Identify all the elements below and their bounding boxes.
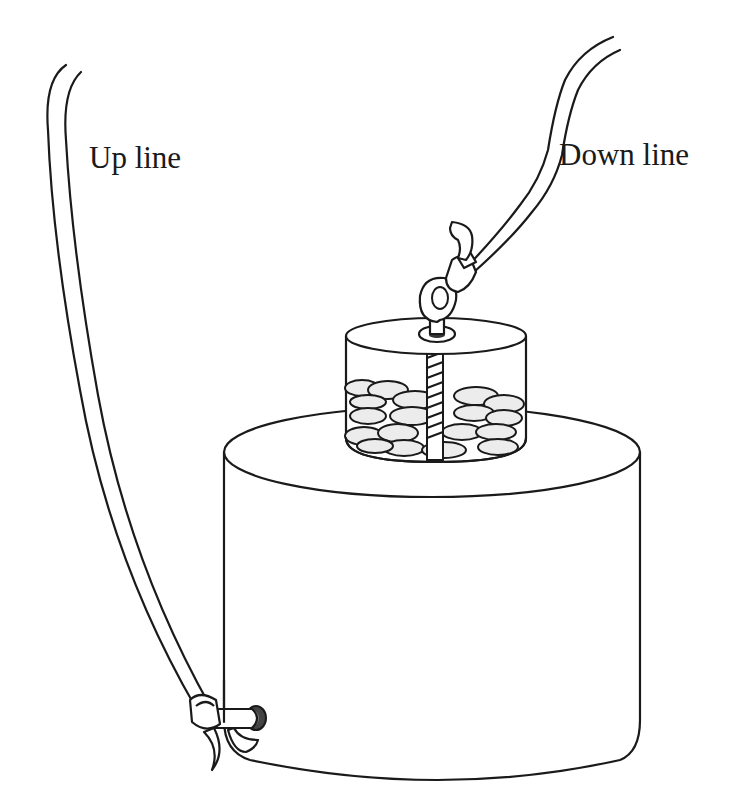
threaded-rod [427,338,443,460]
down-line-label: Down line [559,139,689,170]
trap-diagram [0,0,734,809]
up-line-label: Up line [89,142,181,173]
bait-container [345,318,526,462]
